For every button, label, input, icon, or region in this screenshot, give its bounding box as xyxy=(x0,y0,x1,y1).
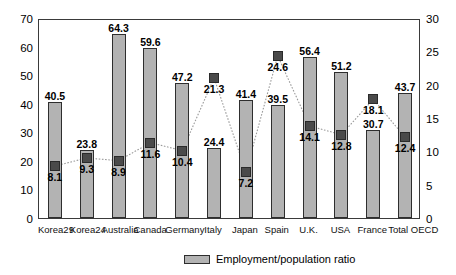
x-axis-tick-label: Total OECD xyxy=(388,224,420,235)
bar xyxy=(207,148,221,218)
y-axis-right-tick-label: 30 xyxy=(426,14,456,24)
x-axis-tick-label: France xyxy=(356,224,388,235)
x-axis-tick-label: Korea24 xyxy=(70,224,102,235)
bar xyxy=(271,105,285,218)
bar xyxy=(239,100,253,218)
marker-value-label: 10.4 xyxy=(163,157,201,168)
bar xyxy=(398,93,412,218)
legend-swatch-bar xyxy=(184,255,210,264)
x-axis-tick-label: U.K. xyxy=(293,224,325,235)
bar xyxy=(143,48,157,218)
marker-value-label: 8.9 xyxy=(100,167,138,178)
data-point-marker xyxy=(209,73,219,83)
marker-value-label: 24.6 xyxy=(259,62,297,73)
data-point-marker xyxy=(400,132,410,142)
y-axis-left-tick-label: 20 xyxy=(3,157,33,167)
marker-value-label: 18.1 xyxy=(354,105,392,116)
x-axis-tick-label: Spain xyxy=(261,224,293,235)
bar xyxy=(366,130,380,218)
x-axis-tick-label: Japan xyxy=(229,224,261,235)
bar-value-label: 40.5 xyxy=(35,91,75,102)
x-axis-tick-label: USA xyxy=(325,224,357,235)
y-axis-right-tick-label: 20 xyxy=(426,81,456,91)
bar-value-label: 59.6 xyxy=(130,37,170,48)
data-point-marker xyxy=(241,167,251,177)
data-point-marker xyxy=(336,130,346,140)
y-axis-left: 70 60 50 40 30 20 10 0 xyxy=(0,0,33,275)
y-axis-left-tick-label: 10 xyxy=(3,185,33,195)
bar-value-label: 64.3 xyxy=(99,23,139,34)
data-point-marker xyxy=(368,94,378,104)
legend: Employment/population ratio xyxy=(184,253,355,265)
marker-value-label: 12.4 xyxy=(386,143,424,154)
data-point-marker xyxy=(273,51,283,61)
data-point-marker xyxy=(305,121,315,131)
bar-value-label: 24.4 xyxy=(194,137,234,148)
bar-value-label: 23.8 xyxy=(67,139,107,150)
y-axis-right-tick-label: 25 xyxy=(426,47,456,57)
plot-area: 40.523.864.359.647.224.441.439.556.451.2… xyxy=(38,19,420,219)
y-axis-left-tick-label: 70 xyxy=(3,14,33,24)
data-point-marker xyxy=(50,161,60,171)
bar-value-label: 56.4 xyxy=(290,46,330,57)
data-point-marker xyxy=(177,146,187,156)
y-axis-right-tick-label: 0 xyxy=(426,214,456,224)
marker-value-label: 7.2 xyxy=(227,178,265,189)
x-axis-tick-label: Korea29 xyxy=(38,224,70,235)
data-point-marker xyxy=(82,153,92,163)
y-axis-left-tick-label: 40 xyxy=(3,100,33,110)
y-axis-left-tick-label: 30 xyxy=(3,128,33,138)
y-axis-right-tick-label: 10 xyxy=(426,147,456,157)
bar-value-label: 47.2 xyxy=(162,72,202,83)
x-axis-tick-label: Italy xyxy=(197,224,229,235)
data-point-marker xyxy=(114,156,124,166)
y-axis-left-tick-label: 0 xyxy=(3,214,33,224)
y-axis-right-tick-label: 5 xyxy=(426,181,456,191)
y-axis-left-tick-label: 60 xyxy=(3,43,33,53)
y-axis-right-tick-label: 15 xyxy=(426,114,456,124)
legend-label: Employment/population ratio xyxy=(216,253,355,265)
marker-value-label: 21.3 xyxy=(195,84,233,95)
x-axis-tick-label: Canada xyxy=(134,224,166,235)
y-axis-left-tick-label: 50 xyxy=(3,71,33,81)
x-axis-tick-label: Australia xyxy=(102,224,134,235)
marker-value-label: 12.8 xyxy=(322,141,360,152)
data-point-marker xyxy=(145,138,155,148)
bar xyxy=(112,34,126,218)
bar-value-label: 51.2 xyxy=(321,61,361,72)
bar-value-label: 39.5 xyxy=(258,94,298,105)
x-axis-tick-label: Germany xyxy=(165,224,197,235)
bar-value-label: 30.7 xyxy=(353,119,393,130)
chart-container: 70 60 50 40 30 20 10 0 30 25 20 15 10 5 … xyxy=(0,0,456,275)
bar-value-label: 43.7 xyxy=(385,82,425,93)
